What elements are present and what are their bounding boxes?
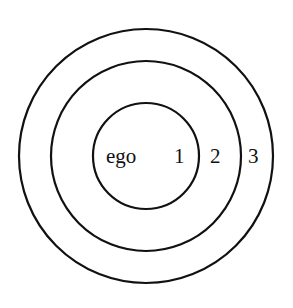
ring-2-label: 2 xyxy=(210,144,221,168)
ego-label: ego xyxy=(106,144,136,168)
ring-3-label: 3 xyxy=(248,144,259,168)
concentric-circles-diagram: ego 1 2 3 xyxy=(0,0,293,308)
outer-circle xyxy=(19,29,273,283)
ring-1-label: 1 xyxy=(174,144,185,168)
